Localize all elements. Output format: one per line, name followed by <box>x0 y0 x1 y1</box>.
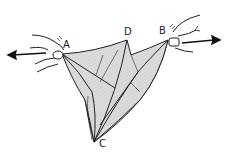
right-hand-icon <box>169 15 200 52</box>
label-c: C <box>99 138 106 149</box>
pull-right-arrow <box>182 36 220 44</box>
label-d: D <box>124 26 132 37</box>
label-b: B <box>159 25 166 36</box>
label-a: A <box>63 39 70 50</box>
origami-diagram: A D B C <box>0 0 231 156</box>
pull-left-arrow <box>8 51 46 59</box>
